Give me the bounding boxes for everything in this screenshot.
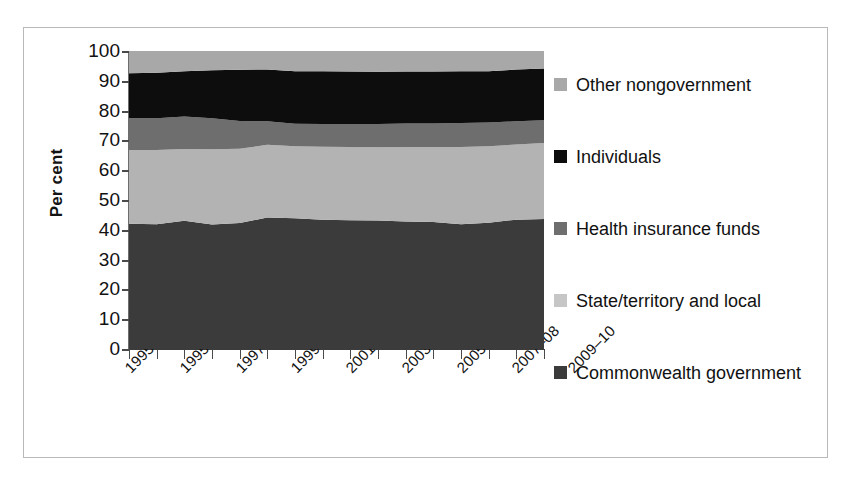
legend-swatch-icon [554,366,567,379]
y-axis-tick-60: 60 [60,160,120,179]
area-series-group [129,51,544,349]
legend-swatch-icon [554,294,567,307]
y-axis-tick-100: 100 [60,41,120,60]
legend-label: Health insurance funds [576,218,760,241]
stacked-area-chart: Per cent 1009080706050403020100 1995–961… [24,28,544,459]
legend-swatch-icon [554,78,567,91]
legend-label: Individuals [576,146,661,169]
y-axis-tick-0: 0 [60,339,120,358]
y-axis-tick-70: 70 [60,130,120,149]
area-series-commonwealth-government [129,218,544,349]
y-axis-tick-90: 90 [60,71,120,90]
legend-item-other-nongovernment[interactable]: Other nongovernment [554,74,751,97]
legend-item-individuals[interactable]: Individuals [554,146,661,169]
plot-area [129,51,544,349]
legend-item-commonwealth-government[interactable]: Commonwealth government [554,362,801,385]
legend-item-health-insurance-funds[interactable]: Health insurance funds [554,218,760,241]
legend-label: Other nongovernment [576,74,751,97]
y-axis-tick-20: 20 [60,279,120,298]
y-axis-tick-30: 30 [60,250,120,269]
area-series-other-nongovernment [129,51,544,73]
area-series-individuals [129,69,544,124]
legend-label: Commonwealth government [576,362,801,385]
legend-swatch-icon [554,150,567,163]
area-series-state-territory-and-local [129,143,544,224]
legend-swatch-icon [554,222,567,235]
y-axis-tick-50: 50 [60,190,120,209]
legend-label: State/territory and local [576,290,761,313]
figure-frame: Per cent 1009080706050403020100 1995–961… [23,27,828,458]
y-axis-tick-10: 10 [60,309,120,328]
y-axis-tick-80: 80 [60,101,120,120]
legend-item-state-territory-and-local[interactable]: State/territory and local [554,290,761,313]
y-axis-tick-40: 40 [60,220,120,239]
